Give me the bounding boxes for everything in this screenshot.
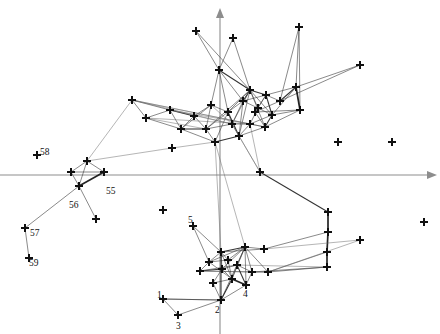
graph-edge	[196, 31, 219, 70]
graph-node	[356, 61, 364, 69]
graph-node	[128, 96, 136, 104]
plot-canvas: 123455556575859	[0, 0, 440, 334]
graph-edge	[193, 226, 221, 252]
graph-node	[261, 123, 269, 131]
x-axis-arrowhead	[427, 171, 437, 179]
graph-edge	[245, 247, 246, 285]
graph-edge	[250, 124, 260, 172]
graph-edge	[215, 136, 239, 142]
graph-node	[356, 236, 364, 244]
graph-node	[420, 218, 428, 226]
axes-layer	[0, 8, 437, 334]
graph-node	[142, 114, 150, 122]
graph-node	[209, 279, 217, 287]
graph-edge	[239, 90, 250, 136]
graph-node	[168, 144, 176, 152]
graph-edge	[146, 110, 170, 118]
graph-edge	[264, 232, 328, 249]
graph-node	[233, 261, 241, 269]
graph-edge	[264, 240, 360, 249]
point-label: 59	[29, 258, 39, 268]
graph-edge	[206, 124, 232, 129]
graph-edge	[280, 65, 360, 101]
graph-edge	[239, 101, 243, 136]
graph-edges-layer	[25, 27, 360, 315]
graph-edge	[232, 124, 260, 172]
graph-edge	[266, 95, 280, 101]
graph-edge	[211, 70, 219, 105]
graph-edge	[87, 100, 132, 161]
graph-edge	[193, 226, 209, 262]
graph-edge	[79, 186, 96, 219]
point-label: 2	[215, 305, 220, 315]
graph-node	[217, 296, 225, 304]
graph-edge	[25, 228, 29, 258]
graph-node	[21, 224, 29, 232]
point-label: 1	[157, 290, 162, 300]
graph-node	[92, 215, 100, 223]
graph-edge	[87, 161, 104, 172]
graph-node	[229, 34, 237, 42]
graph-node	[211, 138, 219, 146]
graph-node	[159, 206, 167, 214]
graph-edge	[181, 129, 215, 142]
graph-edge	[170, 110, 232, 124]
graph-node	[242, 281, 250, 289]
graph-node	[260, 245, 268, 253]
graph-node	[323, 248, 331, 256]
graph-node	[324, 228, 332, 236]
graph-node	[215, 66, 223, 74]
point-label: 57	[30, 228, 40, 238]
point-label: 55	[106, 186, 116, 196]
graph-edge	[209, 252, 221, 262]
graph-node	[334, 138, 342, 146]
graph-node	[83, 157, 91, 165]
graph-edge	[260, 172, 328, 212]
graph-edge	[246, 272, 252, 285]
graph-node	[296, 106, 304, 114]
point-label: 56	[69, 200, 79, 210]
y-axis-arrowhead	[216, 8, 224, 18]
graph-edge	[219, 38, 233, 70]
graph-node	[295, 23, 303, 31]
graph-edge	[233, 38, 250, 90]
graph-edge	[71, 161, 87, 172]
graph-node	[323, 263, 331, 271]
graph-edge	[163, 299, 221, 300]
graph-edge	[299, 27, 300, 110]
graph-edge	[87, 148, 172, 161]
point-label: 4	[243, 289, 248, 299]
graph-nodes-layer	[21, 23, 428, 319]
graph-node	[388, 138, 396, 146]
point-label: 3	[176, 321, 181, 331]
graph-edge	[221, 252, 228, 260]
graph-node	[324, 208, 332, 216]
graph-edge	[181, 116, 194, 129]
point-label: 58	[40, 147, 50, 157]
graph-edge	[172, 142, 215, 148]
graph-edge	[296, 65, 360, 87]
graph-node	[262, 91, 270, 99]
graph-edge	[250, 108, 258, 124]
graph-edge	[252, 267, 327, 272]
point-label: 5	[188, 215, 193, 225]
graph-edge	[163, 299, 178, 315]
graph-edge	[71, 172, 79, 186]
graph-node	[248, 268, 256, 276]
graph-node	[75, 182, 83, 190]
scatter-plot-figure: 123455556575859	[0, 0, 440, 334]
graph-edge	[268, 240, 360, 272]
